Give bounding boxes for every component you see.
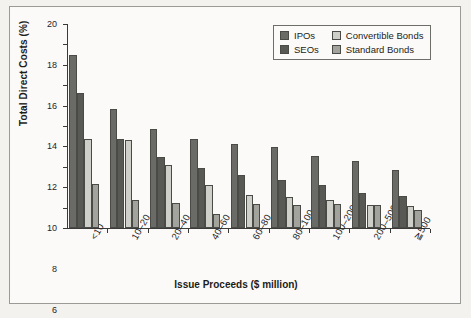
bar xyxy=(84,139,91,228)
legend-swatch-icon xyxy=(280,45,289,54)
x-axis-tick xyxy=(430,229,431,233)
x-axis-tick xyxy=(188,229,189,233)
bar xyxy=(69,55,76,228)
bar xyxy=(392,170,399,228)
y-axis-tick: 16 xyxy=(63,65,67,66)
legend-entry-ipos: IPOs xyxy=(280,30,319,41)
x-axis-title: Issue Proceeds ($ million) xyxy=(10,279,462,290)
y-axis-tick: 2 xyxy=(63,208,67,209)
x-axis-tick xyxy=(107,229,108,233)
bar xyxy=(172,203,179,228)
bar xyxy=(253,204,260,228)
legend-swatch-icon xyxy=(332,31,341,40)
y-axis-line xyxy=(67,24,68,229)
bar xyxy=(92,184,99,228)
legend-label: SEOs xyxy=(294,44,319,55)
x-axis-tick xyxy=(309,229,310,233)
y-axis-tick-label: 8 xyxy=(52,264,57,274)
legend-entry-standard-bonds: Standard Bonds xyxy=(332,44,424,55)
y-axis-tick: 20 xyxy=(63,24,67,25)
page-background: Total Direct Costs (%) 02468101214161820… xyxy=(0,0,471,318)
bar xyxy=(311,156,318,228)
bar xyxy=(213,214,220,228)
x-axis-tick xyxy=(228,229,229,233)
bar xyxy=(334,204,341,228)
bar xyxy=(165,165,172,228)
x-axis-tick xyxy=(269,229,270,233)
bar xyxy=(407,206,414,228)
bar xyxy=(286,197,293,228)
bar xyxy=(77,93,84,228)
y-axis-tick-label: 6 xyxy=(52,305,57,315)
bar xyxy=(374,205,381,228)
bar xyxy=(414,210,421,228)
bar xyxy=(150,129,157,228)
bar xyxy=(198,168,205,228)
y-axis-tick-label: 14 xyxy=(47,141,57,151)
y-axis-tick: 12 xyxy=(63,106,67,107)
bar xyxy=(110,109,117,228)
bar xyxy=(231,144,238,228)
legend-entry-convertible-bonds: Convertible Bonds xyxy=(332,30,424,41)
bar xyxy=(326,200,333,228)
bar xyxy=(278,180,285,228)
bar xyxy=(359,193,366,228)
y-axis-tick: 14 xyxy=(63,85,67,86)
grouped-bar-chart: Total Direct Costs (%) 02468101214161820… xyxy=(10,7,462,305)
y-axis-tick-label: 20 xyxy=(47,19,57,29)
y-axis-tick: 18 xyxy=(63,44,67,45)
x-axis-tick xyxy=(390,229,391,233)
bar xyxy=(246,195,253,228)
y-axis-tick-label: 12 xyxy=(47,182,57,192)
y-axis-title: Total Direct Costs (%) xyxy=(18,21,29,126)
legend-label: IPOs xyxy=(294,30,315,41)
bar xyxy=(238,175,245,228)
figure-frame: Total Direct Costs (%) 02468101214161820… xyxy=(9,6,461,304)
y-axis-tick-label: 10 xyxy=(47,223,57,233)
bar xyxy=(117,139,124,228)
legend-label: Convertible Bonds xyxy=(346,30,424,41)
x-axis-tick xyxy=(349,229,350,233)
bar xyxy=(367,205,374,228)
legend-swatch-icon xyxy=(280,31,289,40)
bar xyxy=(399,196,406,228)
bar xyxy=(352,161,359,228)
bar xyxy=(125,140,132,228)
y-axis-tick: 8 xyxy=(63,146,67,147)
y-axis-tick: 0 xyxy=(63,228,67,229)
y-axis-tick-label: 16 xyxy=(47,101,57,111)
legend-swatch-icon xyxy=(332,45,341,54)
y-axis-tick: 10 xyxy=(63,126,67,127)
y-axis-tick: 6 xyxy=(63,167,67,168)
bar xyxy=(157,157,164,228)
legend-label: Standard Bonds xyxy=(346,44,414,55)
bar xyxy=(319,185,326,228)
bar xyxy=(293,205,300,228)
y-axis-tick-label: 18 xyxy=(47,60,57,70)
legend-entry-seos: SEOs xyxy=(280,44,319,55)
bar xyxy=(271,147,278,228)
bar xyxy=(132,200,139,228)
chart-legend: IPOsConvertible BondsSEOsStandard Bonds xyxy=(273,25,431,60)
x-axis-tick xyxy=(148,229,149,233)
bar xyxy=(205,185,212,228)
bar xyxy=(190,139,197,228)
y-axis-tick: 4 xyxy=(63,187,67,188)
